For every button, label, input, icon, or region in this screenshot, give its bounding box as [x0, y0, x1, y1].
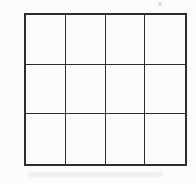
grid-figure	[24, 13, 187, 166]
grid-cell	[145, 114, 185, 164]
figure-canvas	[0, 0, 196, 184]
grid-cell	[66, 15, 106, 65]
grid-cell	[26, 15, 66, 65]
scanned-figure-page: { "figure": { "description": "Scanned bl…	[0, 0, 196, 184]
grid-cell	[66, 114, 106, 164]
scan-speck	[158, 2, 162, 6]
scan-smudge	[28, 172, 163, 177]
grid-cell	[106, 15, 146, 65]
grid-cell	[66, 65, 106, 115]
grid-cell	[106, 114, 146, 164]
grid-cell	[26, 65, 66, 115]
grid-cell	[106, 65, 146, 115]
grid-cell	[26, 114, 66, 164]
grid-cell	[145, 15, 185, 65]
grid-cell	[145, 65, 185, 115]
